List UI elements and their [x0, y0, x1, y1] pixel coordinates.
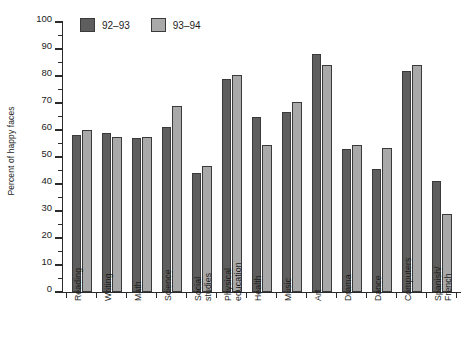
x-tick-8 [306, 292, 307, 298]
y-tick-label-70: 70 [22, 95, 52, 105]
bar [282, 112, 292, 292]
y-tick-label-0: 0 [22, 284, 52, 294]
x-axis-label-line: Science [164, 269, 174, 301]
x-tick-1 [96, 292, 97, 298]
x-tick-end [456, 292, 457, 298]
x-axis-label-line: education [234, 262, 244, 301]
bar [292, 102, 302, 292]
x-tick-2 [126, 292, 127, 298]
y-tick-mark-80 [55, 75, 62, 76]
bar [232, 75, 242, 292]
x-tick-6 [246, 292, 247, 298]
y-tick-mark-60 [55, 129, 62, 130]
x-tick-4 [186, 292, 187, 298]
y-tick-label-30: 30 [22, 203, 52, 213]
x-axis-label-line: Dance [374, 275, 384, 301]
y-tick-mark-20 [55, 237, 62, 238]
bar [312, 54, 322, 292]
y-tick-label-80: 80 [22, 68, 52, 78]
x-axis-label-line: studies [204, 273, 214, 301]
x-tick-12 [426, 292, 427, 298]
bar [102, 133, 112, 292]
bar [112, 137, 122, 292]
x-axis-label-line: Math [134, 281, 144, 301]
x-axis-label-line: Music [284, 278, 294, 301]
y-tick-label-40: 40 [22, 176, 52, 186]
x-tick-7 [276, 292, 277, 298]
bar [142, 137, 152, 292]
x-axis-label-line: Health [254, 275, 264, 301]
x-axis-label-line: Writing [104, 273, 114, 301]
bar [352, 145, 362, 292]
bar [252, 117, 262, 293]
bar [342, 149, 352, 292]
bar [192, 173, 202, 292]
y-tick-mark-90 [55, 48, 62, 49]
x-tick-3 [156, 292, 157, 298]
y-tick-mark-10 [55, 264, 62, 265]
y-tick-label-50: 50 [22, 149, 52, 159]
x-axis-label-line: Drama [344, 274, 354, 301]
x-axis-label-line: Reading [74, 268, 84, 301]
bar [372, 169, 382, 292]
bar-chart: Percent of happy faces 92–9393–94 010203… [0, 0, 467, 357]
bar [322, 65, 332, 292]
x-tick-11 [396, 292, 397, 298]
y-tick-mark-70 [55, 102, 62, 103]
bar [382, 148, 392, 292]
y-tick-mark-0 [55, 291, 62, 292]
y-tick-label-60: 60 [22, 122, 52, 132]
x-axis-label-line: Art [314, 290, 324, 301]
y-tick-mark-40 [55, 183, 62, 184]
y-tick-mark-100 [55, 21, 62, 22]
bar [162, 127, 172, 292]
x-tick-5 [216, 292, 217, 298]
y-axis-title: Percent of happy faces [6, 66, 22, 236]
y-tick-mark-50 [55, 156, 62, 157]
y-tick-label-100: 100 [22, 14, 52, 24]
plot-area [62, 22, 460, 292]
x-tick-0 [66, 292, 67, 298]
y-tick-mark-30 [55, 210, 62, 211]
y-tick-label-90: 90 [22, 41, 52, 51]
bar [262, 145, 272, 292]
x-tick-9 [336, 292, 337, 298]
x-tick-10 [366, 292, 367, 298]
bar [222, 79, 232, 292]
bar [172, 106, 182, 292]
x-axis-label-line: Computers [404, 258, 414, 301]
bar [132, 138, 142, 292]
y-tick-label-10: 10 [22, 257, 52, 267]
x-axis-label-line: French [444, 273, 454, 301]
y-tick-label-20: 20 [22, 230, 52, 240]
